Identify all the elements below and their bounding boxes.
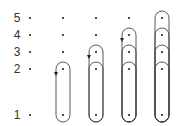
dot	[161, 17, 163, 19]
dot	[128, 34, 130, 36]
loop-4-to-1	[122, 28, 136, 122]
dot	[95, 114, 97, 116]
dot	[161, 114, 163, 116]
loop-2-to-1	[155, 62, 169, 122]
dot	[29, 68, 31, 70]
dot	[95, 68, 97, 70]
loop-2-to-1	[56, 62, 70, 122]
arrow-down-icon	[120, 38, 124, 42]
dot	[95, 17, 97, 19]
dot	[161, 68, 163, 70]
dot	[95, 51, 97, 53]
dot	[62, 34, 64, 36]
dot	[29, 17, 31, 19]
loop-3-to-1	[122, 45, 136, 122]
dot	[161, 51, 163, 53]
dot	[128, 114, 130, 116]
diagram-canvas	[0, 0, 178, 126]
loop-4-to-1	[155, 28, 169, 122]
loop-diagram: 5 4 3 2 1	[0, 0, 178, 126]
dot	[161, 34, 163, 36]
arrow-down-icon	[54, 72, 58, 76]
arrow-down-icon	[87, 55, 91, 59]
loop-2-to-1	[89, 62, 103, 122]
loop-2-to-1	[122, 62, 136, 122]
dot	[128, 17, 130, 19]
dot	[95, 34, 97, 36]
dot	[128, 68, 130, 70]
dot	[29, 114, 31, 116]
dot	[62, 51, 64, 53]
dot	[128, 51, 130, 53]
dot	[62, 114, 64, 116]
dot	[29, 34, 31, 36]
dot	[62, 17, 64, 19]
dot	[62, 68, 64, 70]
loop-3-to-1	[155, 45, 169, 122]
loop-3-to-1	[89, 45, 103, 122]
dot	[29, 51, 31, 53]
